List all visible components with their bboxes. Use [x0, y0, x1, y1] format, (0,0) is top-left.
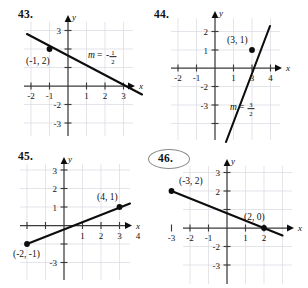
- problem-43: 43.: [0, 0, 154, 144]
- xtick-43-2: 1: [84, 91, 89, 101]
- ticks-45: [27, 170, 120, 263]
- slope-num-44: 3: [249, 101, 253, 108]
- x-axis-label-43: x: [138, 81, 143, 91]
- graph-46: -3 -2 -1 1 2 3 2 -2 -3 x y (-3, 2) (2, 0…: [154, 144, 308, 288]
- xtick-46-2: -1: [205, 233, 213, 243]
- slope-label-43: m = - 1 2: [88, 49, 117, 65]
- y-axis-label-45: y: [67, 154, 72, 164]
- ytick-44-0: 2: [204, 27, 209, 37]
- axes-43: [24, 15, 135, 136]
- xtick-46-0: -3: [168, 233, 176, 243]
- plotted-line-45: [27, 204, 130, 245]
- ytick-46-2: -2: [213, 242, 221, 252]
- point-label-43: (-1, 2): [26, 56, 50, 67]
- xtick-45-0: 1: [80, 231, 85, 241]
- x-axis-label-46: x: [297, 223, 302, 233]
- point-label-46-a: (-3, 2): [179, 176, 203, 187]
- slope-den-43: 2: [111, 58, 114, 65]
- marked-point-46-a: [169, 188, 175, 194]
- ytick-43-0: 3: [57, 26, 62, 36]
- ytick-45-1: 2: [53, 184, 58, 194]
- grid-44: [171, 18, 280, 140]
- point-label-44: (3, 1): [227, 35, 248, 46]
- grid-45: [20, 164, 130, 280]
- grid-43: [24, 22, 133, 136]
- xtick-45-2: 3: [117, 231, 122, 241]
- point-label-46-b: (2, 0): [244, 212, 265, 223]
- xtick-43-4: 3: [121, 91, 126, 101]
- ytick-45-2: 1: [53, 203, 58, 213]
- y-axis-label-44: y: [218, 8, 223, 18]
- xtick-44-1: -1: [193, 73, 201, 83]
- marked-point-45-a: [117, 204, 123, 210]
- graph-45: 1 2 3 4 3 2 1 -3 x y (4, 1) (-2, -1): [0, 144, 154, 288]
- xtick-46-3: 1: [243, 233, 248, 243]
- graph-43: -2 -1 1 2 3 3 -2 -3 x y (-1, 2) m = - 1 …: [0, 0, 154, 144]
- xtick-44-4: 4: [268, 73, 273, 83]
- ytick-44-3: -3: [201, 101, 209, 111]
- tick-labels-44: -2 -1 1 3 4 2 1 -2 -3: [174, 27, 273, 111]
- y-axis-label-46: y: [230, 156, 235, 166]
- xtick-46-4: 2: [262, 233, 267, 243]
- slope-sign-43: -: [106, 50, 109, 60]
- ytick-45-3: -3: [50, 258, 58, 268]
- x-axis-label-45: x: [135, 221, 140, 231]
- point-label-45-a: (4, 1): [97, 192, 118, 203]
- graph-44: -2 -1 1 3 4 2 1 -2 -3 x y (3, 1) m = 3 2: [154, 0, 308, 144]
- ytick-43-2: -3: [54, 119, 62, 129]
- xtick-43-0: -2: [27, 91, 35, 101]
- slope-m-43: m: [88, 50, 95, 60]
- marked-point-45-b: [24, 241, 30, 247]
- xtick-46-1: -2: [186, 233, 194, 243]
- ytick-46-3: -3: [213, 261, 221, 271]
- slope-den-44: 2: [249, 110, 252, 117]
- point-label-45-b: (-2, -1): [13, 249, 40, 260]
- x-axis-label-44: x: [285, 63, 290, 73]
- ytick-44-1: 1: [204, 46, 209, 56]
- xtick-44-0: -2: [174, 73, 182, 83]
- xtick-43-3: 2: [103, 91, 108, 101]
- xtick-44-2: 1: [231, 73, 236, 83]
- ytick-43-1: -2: [54, 100, 62, 110]
- problem-46: 46.: [154, 144, 308, 288]
- slope-eq-43: =: [97, 50, 102, 60]
- problem-45: 45.: [0, 144, 154, 288]
- xtick-43-1: -1: [46, 91, 54, 101]
- marked-point-46-b: [261, 225, 267, 231]
- slope-m-44: m: [230, 102, 237, 112]
- xtick-45-1: 2: [99, 231, 104, 241]
- ytick-46-0: 3: [216, 168, 221, 178]
- y-axis-label-43: y: [71, 12, 76, 22]
- slope-num-43: 1: [111, 49, 114, 56]
- axes-44: [171, 11, 282, 140]
- worksheet-page: 43.: [0, 0, 308, 288]
- axes-45: [20, 157, 132, 280]
- marked-point-43: [47, 46, 53, 52]
- problem-44: 44.: [154, 0, 308, 144]
- ytick-45-0: 3: [53, 166, 58, 176]
- xtick-44-3: 3: [250, 73, 255, 83]
- marked-point-44: [249, 47, 255, 53]
- slope-eq-44: =: [239, 102, 244, 112]
- xtick-45-3: 4: [136, 231, 141, 241]
- ytick-44-2: -2: [201, 82, 209, 92]
- ytick-46-1: 2: [216, 187, 221, 197]
